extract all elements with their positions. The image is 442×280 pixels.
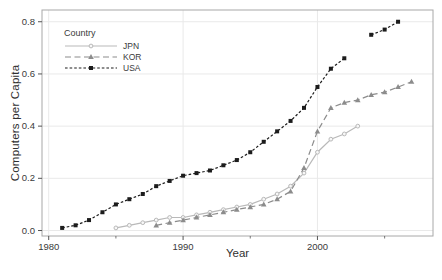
data-point-square: [141, 192, 145, 196]
data-point-square: [168, 179, 172, 183]
data-point-square: [275, 129, 279, 133]
data-point-circle: [302, 171, 306, 175]
jpn-line-sample-icon: [64, 41, 118, 51]
data-point-square: [383, 28, 387, 32]
legend-entries: JPNKORUSA: [64, 40, 141, 73]
data-point-square: [396, 20, 400, 24]
y-tick-label: 0.6: [22, 68, 35, 79]
data-point-circle: [114, 226, 118, 230]
chart-figure: 1980199020000.00.20.40.60.8 Computers pe…: [0, 0, 442, 280]
data-point-square: [329, 67, 333, 71]
data-point-square: [195, 171, 199, 175]
y-axis-title: Computers per Capita: [9, 63, 21, 183]
series-line-jpn: [116, 126, 358, 228]
data-point-square: [87, 218, 91, 222]
data-point-square: [235, 158, 239, 162]
data-point-square: [208, 168, 212, 172]
legend-item-jpn: JPN: [64, 40, 141, 51]
data-point-triangle: [301, 165, 307, 170]
data-point-square: [315, 85, 319, 89]
data-point-square: [248, 150, 252, 154]
legend-title: Country: [64, 28, 141, 38]
data-point-triangle: [328, 105, 334, 110]
data-point-square: [114, 202, 118, 206]
data-point-triangle: [261, 202, 267, 207]
data-point-circle: [168, 216, 172, 220]
data-point-square: [289, 119, 293, 123]
data-point-square: [154, 184, 158, 188]
data-point-square: [127, 197, 131, 201]
data-point-square: [181, 174, 185, 178]
data-point-square: [369, 33, 373, 37]
data-point-circle: [154, 218, 158, 222]
data-point-square: [221, 163, 225, 167]
data-point-circle: [342, 132, 346, 136]
data-point-square: [100, 210, 104, 214]
data-point-triangle: [288, 188, 294, 193]
data-point-square: [74, 223, 78, 227]
data-point-circle: [289, 184, 293, 188]
data-point-square: [302, 106, 306, 110]
data-point-square: [262, 140, 266, 144]
kor-line-sample-icon: [64, 52, 118, 62]
y-tick-label: 0.0: [22, 225, 35, 236]
data-point-triangle: [167, 220, 173, 225]
data-point-circle: [262, 197, 266, 201]
series-line-kor: [156, 82, 411, 226]
usa-line-sample-icon: [64, 63, 118, 73]
y-tick-label: 0.4: [22, 120, 35, 131]
x-axis-title: Year: [42, 247, 433, 259]
data-point-triangle: [274, 196, 280, 201]
legend: Country JPNKORUSA: [60, 26, 145, 75]
legend-item-usa: USA: [64, 62, 141, 73]
data-point-square: [60, 226, 64, 230]
data-point-square: [342, 56, 346, 60]
data-point-triangle: [409, 79, 415, 84]
data-point-circle: [141, 221, 145, 225]
data-point-circle: [356, 124, 360, 128]
legend-label-kor: KOR: [123, 52, 141, 62]
data-point-triangle: [355, 97, 361, 102]
y-tick-label: 0.8: [22, 16, 35, 27]
legend-label-usa: USA: [123, 63, 140, 73]
legend-label-jpn: JPN: [123, 41, 139, 51]
data-point-triangle: [315, 128, 321, 133]
y-tick-label: 0.2: [22, 172, 35, 183]
legend-item-kor: KOR: [64, 51, 141, 62]
data-point-circle: [316, 150, 320, 154]
data-point-circle: [127, 223, 131, 227]
data-point-circle: [275, 192, 279, 196]
data-point-circle: [329, 137, 333, 141]
